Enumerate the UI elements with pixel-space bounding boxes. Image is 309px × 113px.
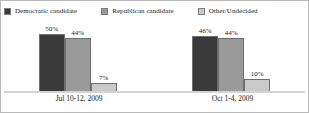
x-axis-tick-label: Oct 1-4, 2009 (212, 94, 253, 104)
bar-item: 44% (65, 25, 91, 91)
legend-item-label: Other/Undecided (209, 7, 258, 15)
bar-item: 50% (39, 25, 65, 91)
plot-area: 50% 44% 7% 46% 44% (1, 25, 308, 93)
bar-groups: 50% 44% 7% 46% 44% (1, 25, 308, 91)
bar-value-label: 44% (225, 29, 238, 37)
bar-value-label: 46% (199, 27, 212, 35)
bar-rect (65, 38, 91, 91)
legend-swatch-icon (101, 8, 108, 15)
bar-rect (192, 36, 218, 91)
axis-baseline (4, 91, 305, 93)
legend-item-democratic-candidate: Democratic candidate (4, 7, 77, 15)
bar-item: 10% (244, 25, 270, 91)
bar-item: 7% (91, 25, 117, 91)
bar-value-label: 7% (99, 74, 108, 82)
legend-item-label: Democratic candidate (15, 7, 77, 15)
bar-group: 50% 44% 7% (39, 25, 117, 91)
bar-value-label: 50% (45, 25, 58, 33)
bar-chart-figure: Democratic candidate Republican candidat… (0, 0, 309, 113)
bar-value-label: 44% (71, 29, 84, 37)
bar-item: 44% (218, 25, 244, 91)
bar-rect (39, 34, 65, 91)
bar-rect (218, 38, 244, 91)
bar-group: 46% 44% 10% (192, 25, 270, 91)
legend-item-other-undecided: Other/Undecided (198, 7, 258, 15)
legend-swatch-icon (198, 8, 205, 15)
chart-legend: Democratic candidate Republican candidat… (4, 5, 305, 17)
legend-swatch-icon (4, 8, 11, 15)
x-axis-tick-label: Jul 10-12, 2009 (56, 94, 103, 104)
legend-item-label: Republican candidate (112, 7, 173, 15)
bar-rect (91, 83, 117, 91)
bar-value-label: 10% (251, 70, 264, 78)
bar-rect (244, 79, 270, 91)
x-axis-labels: Jul 10-12, 2009 Oct 1-4, 2009 (1, 94, 308, 108)
legend-item-republican-candidate: Republican candidate (101, 7, 173, 15)
bar-item: 46% (192, 25, 218, 91)
